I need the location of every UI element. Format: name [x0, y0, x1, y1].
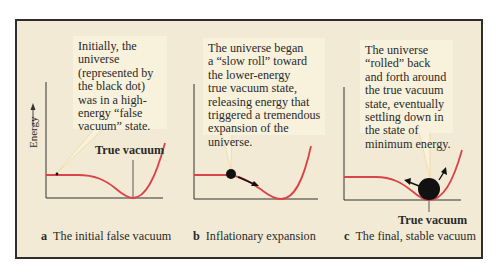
panel-b-curve	[194, 146, 311, 199]
callout-line: triggered a tremendous	[208, 109, 320, 122]
callout-line: the state of	[365, 124, 448, 137]
caption-a: aThe initial false vacuum	[41, 229, 171, 244]
caption-letter: a	[41, 229, 47, 243]
callout-a: Initially, the universe (represented by …	[73, 36, 167, 129]
rolling-ball	[226, 169, 236, 179]
callout-line: the true vacuum	[365, 84, 448, 97]
y-axis-label: Energy	[27, 116, 39, 148]
caption-letter: b	[193, 229, 200, 243]
false-vacuum-dot	[56, 173, 59, 176]
roll-arrow-icon	[238, 177, 259, 186]
caption-text: The initial false vacuum	[53, 229, 171, 243]
panel-c-true-vacuum-label: True vacuum	[398, 213, 467, 228]
caption-text: Inflationary expansion	[206, 229, 316, 243]
callout-c: The universe “rolled” back and forth aro…	[360, 40, 453, 133]
settled-ball	[418, 178, 440, 200]
callout-line: vacuum” state.	[78, 120, 162, 133]
callout-line: the black dot)	[78, 80, 162, 93]
callout-line: universe.	[208, 136, 320, 149]
callout-b: The universe began a “slow roll” toward …	[203, 38, 325, 135]
callout-line: and forth around	[365, 71, 448, 84]
callout-line: The universe began	[208, 42, 320, 55]
panel-c-curve	[344, 150, 462, 200]
callout-line: (represented by	[78, 67, 162, 80]
caption-text: The final, stable vacuum	[355, 229, 475, 243]
callout-line: “rolled” back	[365, 57, 448, 70]
callout-line: universe	[78, 53, 162, 66]
caption-c: cThe final, stable vacuum	[344, 229, 476, 244]
callout-line: settling down in	[365, 111, 448, 124]
callout-line: energy “false	[78, 107, 162, 120]
caption-letter: c	[344, 229, 349, 243]
callout-line: was in a high-	[78, 94, 162, 107]
panel-a-true-vacuum-label: True vacuum	[95, 143, 164, 158]
callout-line: releasing energy that	[208, 96, 320, 109]
callout-line: the lower-energy	[208, 69, 320, 82]
callout-line: true vacuum state,	[208, 82, 320, 95]
caption-b: bInflationary expansion	[193, 229, 316, 244]
callout-line: a “slow roll” toward	[208, 55, 320, 68]
callout-line: state, eventually	[365, 98, 448, 111]
callout-line: minimum energy.	[365, 138, 448, 151]
callout-line: expansion of the	[208, 122, 320, 135]
callout-line: Initially, the	[78, 40, 162, 53]
callout-line: The universe	[365, 44, 448, 57]
